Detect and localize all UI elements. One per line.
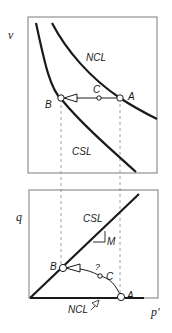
point-a-upper xyxy=(117,95,123,101)
ncl-label-lower: NCL xyxy=(68,304,88,315)
point-a-label-lower: A xyxy=(126,290,134,301)
point-a-lower xyxy=(117,293,124,300)
point-b-lower xyxy=(59,264,66,271)
ncl-label-upper: NCL xyxy=(86,52,106,63)
csl-label-lower: CSL xyxy=(83,213,102,224)
point-c-upper xyxy=(97,96,101,100)
point-c-label-lower: C xyxy=(106,271,114,282)
q-axis-label: q xyxy=(16,210,22,224)
csl-label-upper: CSL xyxy=(72,146,91,157)
question-mark: ? xyxy=(95,262,100,272)
point-c-lower xyxy=(98,274,102,278)
upper-plot-frame xyxy=(28,17,157,173)
point-a-label-upper: A xyxy=(127,91,135,102)
arrow-head-upper xyxy=(64,94,77,102)
p-prime-axis-label: p' xyxy=(150,305,160,319)
point-b-label-upper: B xyxy=(45,99,52,110)
point-c-label-upper: C xyxy=(93,84,101,95)
point-b-label-lower: B xyxy=(50,261,57,272)
slope-label-m: M xyxy=(107,236,116,247)
diagram-canvas: v NCL CSL B C A M q p' CSL NCL B ? C A xyxy=(0,0,172,333)
ncl-curve-upper xyxy=(52,23,157,119)
csl-line-lower xyxy=(30,194,139,298)
arrow-head-lower xyxy=(66,264,80,272)
point-b-upper xyxy=(58,95,64,101)
v-axis-label: v xyxy=(8,28,14,42)
ncl-pointer-head xyxy=(92,300,99,307)
